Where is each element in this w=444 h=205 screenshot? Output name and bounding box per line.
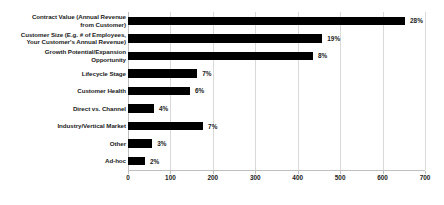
category-label: Customer Size (E.g. # of Employees, Your… [2, 31, 126, 46]
bar-container: 6% [128, 82, 204, 100]
category-label: Lifecycle Stage [2, 70, 126, 78]
bar-value-label: 7% [208, 123, 217, 130]
bar-container: 28% [128, 12, 423, 30]
x-axis-tick-label: 300 [250, 174, 261, 181]
x-axis-tick-label: 400 [292, 174, 303, 181]
bar-row: Lifecycle Stage7% [0, 65, 444, 83]
bar-container: 4% [128, 100, 168, 118]
category-label: Ad-hoc [2, 157, 126, 165]
bar [128, 69, 197, 78]
category-label: Contract Value (Annual Revenue from Cust… [2, 13, 126, 28]
bar [128, 87, 190, 96]
bar [128, 52, 313, 61]
bar-value-label: 8% [318, 52, 327, 59]
bar-row: Contract Value (Annual Revenue from Cust… [0, 12, 444, 30]
bar [128, 139, 152, 148]
bar-row: Growth Potential/Expansion Opportunity8% [0, 47, 444, 65]
x-axis-tick-label: 200 [208, 174, 219, 181]
category-label: Growth Potential/Expansion Opportunity [2, 48, 126, 63]
bar [128, 122, 203, 131]
bar-value-label: 28% [410, 17, 423, 24]
bar-row: Customer Size (E.g. # of Employees, Your… [0, 30, 444, 48]
x-axis-tick-label: 0 [126, 174, 130, 181]
bar [128, 104, 154, 113]
bar-value-label: 3% [157, 140, 166, 147]
x-axis-tick-label: 100 [165, 174, 176, 181]
bar-value-label: 7% [202, 70, 211, 77]
bar-container: 7% [128, 117, 217, 135]
bar-value-label: 6% [195, 87, 204, 94]
bar-value-label: 19% [327, 35, 340, 42]
x-axis-tick-label: 700 [420, 174, 431, 181]
bar-container: 19% [128, 30, 340, 48]
bar [128, 157, 145, 166]
bar-row: Direct vs. Channel4% [0, 100, 444, 118]
category-label: Other [2, 140, 126, 148]
category-label: Customer Health [2, 87, 126, 95]
category-label: Industry/Vertical Market [2, 122, 126, 130]
bar-container: 3% [128, 135, 166, 153]
bar-rows: Contract Value (Annual Revenue from Cust… [0, 12, 444, 170]
bar [128, 34, 322, 43]
bar-row: Other3% [0, 135, 444, 153]
bar-row: Industry/Vertical Market7% [0, 117, 444, 135]
x-axis-ticks: 0100200300400500600700 [0, 171, 444, 187]
bar-row: Customer Health6% [0, 82, 444, 100]
x-axis-tick-label: 500 [335, 174, 346, 181]
bar-container: 7% [128, 65, 211, 83]
bar-value-label: 2% [150, 158, 159, 165]
bar-container: 8% [128, 47, 327, 65]
bar-row: Ad-hoc2% [0, 152, 444, 170]
x-axis-tick-label: 600 [377, 174, 388, 181]
bar [128, 17, 405, 26]
bar-value-label: 4% [159, 105, 168, 112]
bar-container: 2% [128, 152, 159, 170]
category-label: Direct vs. Channel [2, 105, 126, 113]
bar-chart: Contract Value (Annual Revenue from Cust… [0, 0, 444, 205]
